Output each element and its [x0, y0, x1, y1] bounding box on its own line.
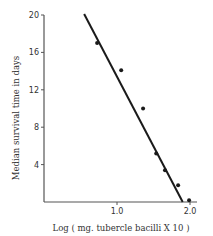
x-tick-label: 2.0 [184, 207, 197, 216]
data-point [119, 68, 123, 72]
scatter-chart: 48121620 1.02.0 Median survival time in … [0, 0, 213, 236]
axes [44, 15, 197, 202]
x-tick-label: 1.0 [111, 207, 124, 216]
y-axis-label: Median survival time in days [11, 56, 21, 180]
data-point [176, 183, 180, 187]
y-axis-ticks: 48121620 [29, 11, 44, 170]
y-tick-label: 16 [29, 48, 39, 57]
data-points [95, 41, 191, 202]
data-point [163, 168, 167, 172]
y-tick-label: 12 [29, 86, 39, 95]
x-axis-ticks: 1.02.0 [111, 202, 197, 216]
y-tick-label: 8 [34, 123, 39, 132]
y-tick-label: 4 [34, 161, 39, 170]
y-tick-label: 20 [29, 11, 39, 20]
data-point [95, 41, 99, 45]
data-point [154, 151, 158, 155]
x-axis-label: Log ( mg. tubercle bacilli X 10 ) [53, 223, 190, 233]
data-point [141, 107, 145, 111]
data-point [187, 198, 191, 202]
